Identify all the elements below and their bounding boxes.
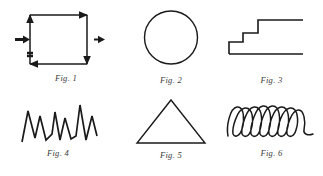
- figure-cell-fig4: Fig. 4: [8, 96, 118, 158]
- figure-art-circle: [122, 6, 220, 72]
- figure-caption-fig3: Fig. 3: [260, 76, 282, 85]
- figure-cell-fig2: Fig. 2: [122, 6, 220, 85]
- figure-art-staircase: [224, 6, 319, 72]
- figure-cell-fig6: Fig. 6: [224, 96, 319, 158]
- figure-caption-fig2: Fig. 2: [160, 76, 182, 85]
- outlet-arrow-head: [98, 36, 105, 43]
- figure-art-triangle: [122, 96, 220, 148]
- circle-outline: [145, 11, 198, 64]
- figure-caption-fig1: Fig. 1: [55, 74, 77, 83]
- figure-art-square-with-direction-arrows: [8, 6, 118, 74]
- figure-cell-fig1: Fig. 1: [8, 6, 118, 83]
- staircase-profile: [229, 20, 303, 54]
- figure-plate: Fig. 1 Fig. 2 Fig. 3 Fig. 4 Fig. 5 Fig: [0, 0, 323, 176]
- coil-path: [227, 106, 313, 136]
- zigzag-polyline: [22, 105, 97, 142]
- figure-art-coil-helix: [224, 96, 319, 146]
- triangle-outline: [137, 100, 205, 143]
- figure-caption-fig6: Fig. 6: [260, 149, 282, 158]
- figure-cell-fig5: Fig. 5: [122, 96, 220, 160]
- inlet-arrow-head: [23, 36, 30, 44]
- figure-art-zigzag-wave: [8, 96, 118, 146]
- figure-caption-fig5: Fig. 5: [160, 151, 182, 160]
- figure-caption-fig4: Fig. 4: [47, 149, 69, 158]
- figure-cell-fig3: Fig. 3: [224, 6, 319, 85]
